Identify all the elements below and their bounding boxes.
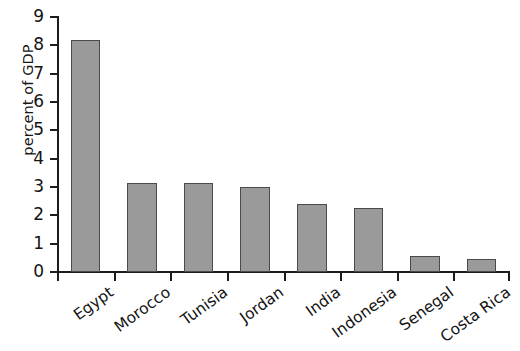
x-tick-label: India bbox=[303, 284, 343, 319]
y-tick-mark bbox=[50, 101, 58, 103]
y-tick-label-text: 7 bbox=[14, 65, 44, 82]
y-tick-label: 0 bbox=[12, 263, 44, 280]
y-tick-label-text: 0 bbox=[14, 263, 44, 280]
bar bbox=[71, 40, 100, 272]
y-tick-mark bbox=[50, 44, 58, 46]
bar bbox=[467, 259, 496, 272]
y-tick-mark bbox=[50, 158, 58, 160]
y-tick-label-text: 8 bbox=[14, 36, 44, 53]
y-tick-label-text: 9 bbox=[14, 8, 44, 25]
x-tick-label: Jordan bbox=[237, 284, 286, 326]
y-tick-label: 3 bbox=[12, 178, 44, 195]
x-tick-mark bbox=[340, 272, 342, 281]
y-tick-label-text: 5 bbox=[14, 121, 44, 138]
x-tick-mark bbox=[453, 272, 455, 281]
x-tick-label: Morocco bbox=[111, 284, 173, 335]
y-tick-label: 4 bbox=[12, 150, 44, 167]
x-tick-mark bbox=[284, 272, 286, 281]
y-tick-label: 6 bbox=[12, 93, 44, 110]
y-tick-mark bbox=[50, 186, 58, 188]
bar bbox=[297, 204, 326, 272]
x-tick-mark bbox=[114, 272, 116, 281]
y-tick-mark bbox=[50, 214, 58, 216]
x-tick-label: Tunisia bbox=[178, 284, 230, 328]
x-tick-mark bbox=[227, 272, 229, 281]
x-tick-mark bbox=[57, 272, 59, 281]
y-tick-mark bbox=[50, 243, 58, 245]
y-tick-mark bbox=[50, 129, 58, 131]
bar bbox=[240, 187, 269, 272]
bar bbox=[127, 183, 156, 272]
bar-chart: percent of GDP 9876543210 EgyptMoroccoTu… bbox=[0, 0, 520, 351]
y-tick-label-text: 2 bbox=[14, 206, 44, 223]
y-tick-label: 9 bbox=[12, 8, 44, 25]
bar bbox=[184, 183, 213, 272]
x-tick-mark bbox=[508, 272, 510, 281]
bar bbox=[410, 256, 439, 272]
x-tick-label: Egypt bbox=[71, 284, 117, 323]
y-tick-mark bbox=[50, 16, 58, 18]
y-axis-line bbox=[57, 16, 59, 273]
bar bbox=[354, 208, 383, 272]
y-tick-mark bbox=[50, 73, 58, 75]
y-tick-label-text: 4 bbox=[14, 150, 44, 167]
x-tick-mark bbox=[170, 272, 172, 281]
y-tick-label: 8 bbox=[12, 36, 44, 53]
y-tick-label-text: 1 bbox=[14, 235, 44, 252]
y-tick-label-text: 3 bbox=[14, 178, 44, 195]
y-tick-label-text: 6 bbox=[14, 93, 44, 110]
y-tick-label: 2 bbox=[12, 206, 44, 223]
y-tick-label: 7 bbox=[12, 65, 44, 82]
y-tick-label: 5 bbox=[12, 121, 44, 138]
y-tick-label: 1 bbox=[12, 235, 44, 252]
x-tick-mark bbox=[397, 272, 399, 281]
